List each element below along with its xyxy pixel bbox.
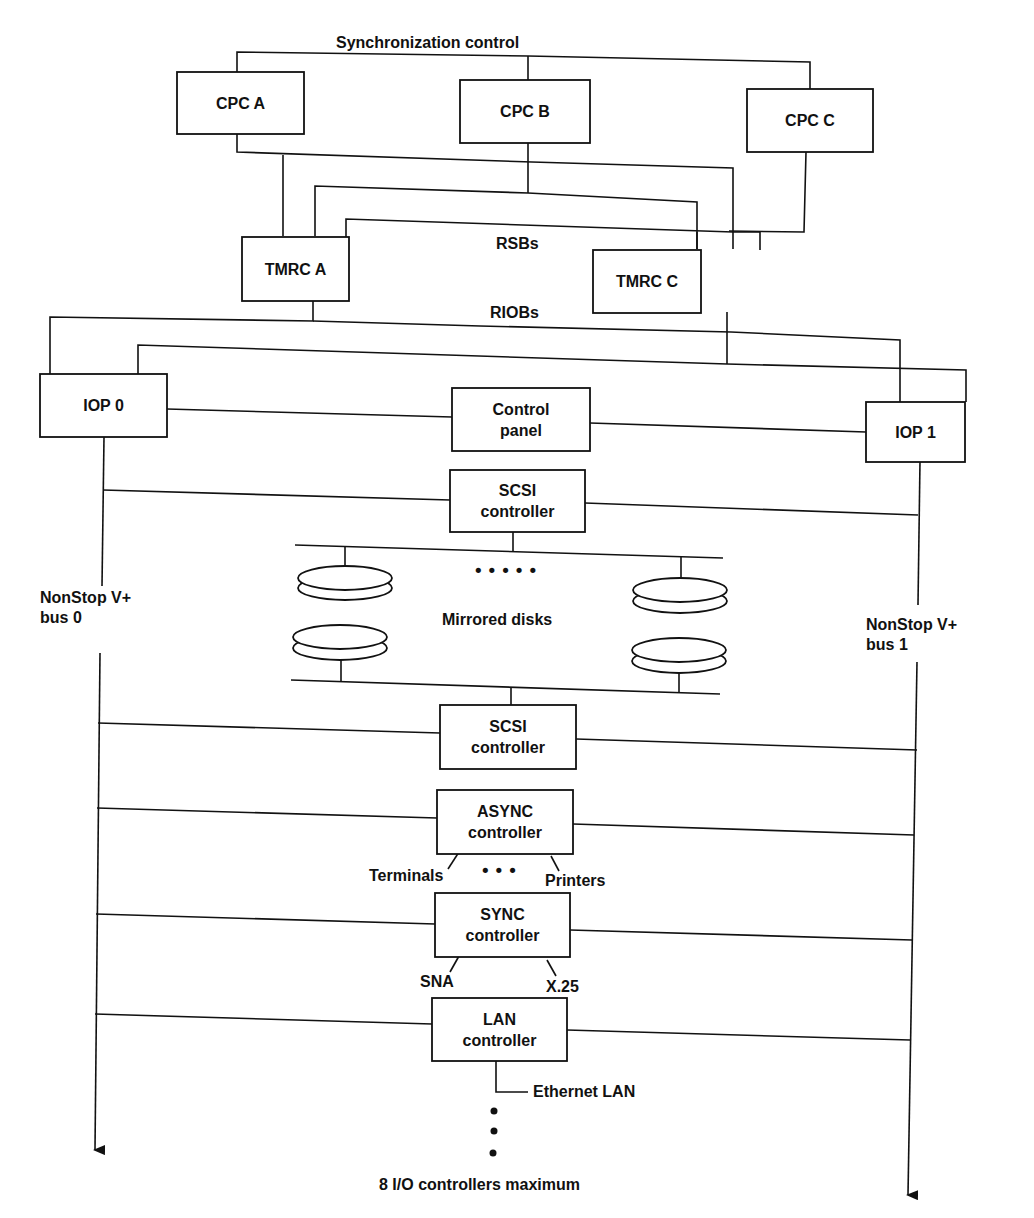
iop-1: IOP 1 xyxy=(866,402,965,462)
cpc-a: CPC A xyxy=(177,72,304,134)
bus-1-label-1: NonStop V+ xyxy=(866,615,957,635)
cpc-b: CPC B xyxy=(460,80,590,143)
bus-1-label-2: bus 1 xyxy=(866,635,957,655)
disk-ellipsis: ••••• xyxy=(473,560,541,581)
scsi-2-label-1: SCSI xyxy=(489,716,526,737)
async-label-2: controller xyxy=(468,822,542,843)
bus-0-label-2: bus 0 xyxy=(40,608,131,628)
scsi-1-label-1: SCSI xyxy=(499,480,536,501)
nonstop-bus-0 xyxy=(95,437,104,1150)
cpc-c: CPC C xyxy=(747,89,873,152)
tmrc-c: TMRC C xyxy=(593,250,701,313)
async-label-1: ASYNC xyxy=(477,801,533,822)
bus-0-label: NonStop V+ bus 0 xyxy=(40,588,131,628)
cpc-a-label: CPC A xyxy=(216,93,265,114)
disk-icon xyxy=(293,625,387,660)
lan-label-1: LAN xyxy=(483,1009,516,1030)
control-panel: Control panel xyxy=(452,388,590,451)
scsi-controller-2: SCSI controller xyxy=(440,705,576,769)
nonstop-bus-1 xyxy=(908,461,920,1195)
max-controllers-label: 8 I/O controllers maximum xyxy=(379,1175,580,1195)
iop-0-label: IOP 0 xyxy=(83,395,124,416)
ellipsis-dot xyxy=(491,1128,498,1135)
scsi-1-label-2: controller xyxy=(481,501,555,522)
cpc-c-label: CPC C xyxy=(785,110,835,131)
x25-label: X.25 xyxy=(546,977,579,997)
tmrc-a-label: TMRC A xyxy=(265,259,327,280)
sync-label-2: controller xyxy=(466,925,540,946)
disk-icon xyxy=(298,566,392,600)
sync-label-1: SYNC xyxy=(480,904,524,925)
terminals-label: Terminals xyxy=(369,866,443,886)
async-controller: ASYNC controller xyxy=(437,790,573,854)
lan-label-2: controller xyxy=(463,1030,537,1051)
sync-control-label: Synchronization control xyxy=(336,33,519,53)
tmrc-c-label: TMRC C xyxy=(616,271,678,292)
disk-icon xyxy=(633,578,727,613)
tmrc-a: TMRC A xyxy=(242,237,349,301)
sna-label: SNA xyxy=(420,972,454,992)
control-panel-label-2: panel xyxy=(500,420,542,441)
scsi-controller-1: SCSI controller xyxy=(450,470,585,532)
bus-0-label-1: NonStop V+ xyxy=(40,588,131,608)
terminal-printer-ellipsis: ••• xyxy=(480,860,521,881)
control-panel-label-1: Control xyxy=(493,399,550,420)
ellipsis-dot xyxy=(491,1108,498,1115)
riobs-label: RIOBs xyxy=(490,303,539,323)
sync-controller: SYNC controller xyxy=(435,893,570,957)
bus-1-label: NonStop V+ bus 1 xyxy=(866,615,957,655)
rsbs-label: RSBs xyxy=(496,234,539,254)
disk-icon xyxy=(632,638,726,673)
ethernet-label: Ethernet LAN xyxy=(533,1082,635,1102)
mirrored-disks-label: Mirrored disks xyxy=(442,610,552,630)
ellipsis-dot xyxy=(490,1150,497,1157)
lan-controller: LAN controller xyxy=(432,998,567,1061)
printers-label: Printers xyxy=(545,871,605,891)
cpc-b-label: CPC B xyxy=(500,101,550,122)
scsi-2-label-2: controller xyxy=(471,737,545,758)
iop-0: IOP 0 xyxy=(40,374,167,437)
rsb-links xyxy=(237,132,806,250)
iop-1-label: IOP 1 xyxy=(895,422,936,443)
